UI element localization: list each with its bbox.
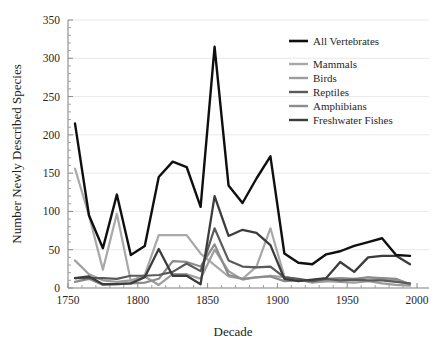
legend-label-all-vertebrates[interactable]: All Vertebrates: [313, 35, 379, 47]
chart-legend[interactable]: All VertebratesMammalsBirdsReptilesAmphi…: [289, 35, 393, 126]
x-tick-label-1950: 1950: [336, 294, 359, 306]
x-axis-title: Decade: [214, 324, 253, 339]
x-tick-label-1900: 1900: [266, 294, 289, 306]
tick-marks: [68, 20, 417, 288]
legend-label-freshwater-fishes[interactable]: Freshwater Fishes: [313, 114, 393, 126]
y-tick-label-250: 250: [43, 91, 61, 103]
legend-label-mammals[interactable]: Mammals: [313, 58, 357, 70]
y-tick-label-150: 150: [43, 167, 61, 179]
y-tick-label-200: 200: [43, 129, 61, 141]
series-line-all-vertebrates: [75, 47, 410, 264]
axes: [68, 20, 429, 288]
y-axis-tick-labels: 050100150200250300350: [43, 14, 61, 294]
legend-label-reptiles[interactable]: Reptiles: [313, 86, 349, 98]
y-axis-title: Number Newly Described Species: [9, 64, 24, 243]
y-tick-label-300: 300: [43, 52, 61, 64]
x-tick-label-1800: 1800: [126, 294, 149, 306]
line-chart-canvas: 050100150200250300350 175018001850190019…: [0, 0, 447, 347]
y-tick-label-350: 350: [43, 14, 61, 26]
y-tick-label-50: 50: [49, 244, 61, 256]
y-tick-label-0: 0: [54, 282, 60, 294]
gridlines: [68, 20, 429, 288]
series-line-freshwater-fishes: [75, 196, 410, 284]
chart-figure: 050100150200250300350 175018001850190019…: [0, 0, 447, 347]
y-tick-label-100: 100: [43, 205, 61, 217]
x-tick-label-2000: 2000: [406, 294, 429, 306]
x-tick-label-1850: 1850: [196, 294, 219, 306]
legend-label-birds[interactable]: Birds: [313, 72, 337, 84]
legend-label-amphibians[interactable]: Amphibians: [313, 100, 367, 112]
x-axis-tick-labels: 175018001850190019502000: [57, 294, 429, 306]
x-tick-label-1750: 1750: [57, 294, 80, 306]
